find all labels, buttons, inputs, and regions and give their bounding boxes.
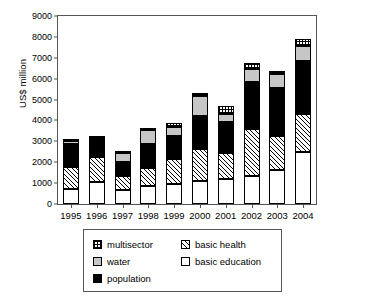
y-axis-tick-mark [54, 36, 58, 37]
x-axis-tick-label: 2003 [267, 210, 288, 221]
bar-segment-basic-education [89, 182, 105, 204]
legend-swatch-multisector-icon [93, 240, 102, 249]
bar-segment-multisector [166, 123, 182, 127]
x-axis-tick-mark [200, 204, 201, 208]
bar-segment-basic-health [192, 149, 208, 181]
x-axis-tick-mark [226, 204, 227, 208]
bar-segment-population [269, 88, 285, 136]
legend-label: basic education [195, 256, 261, 267]
y-axis-tick-mark [54, 162, 58, 163]
legend-label: water [107, 256, 130, 267]
bar-segment-basic-education [269, 170, 285, 204]
bar-segment-basic-health [166, 159, 182, 184]
bar-segment-basic-health [140, 168, 156, 186]
bar-segment-basic-education [140, 186, 156, 204]
legend-item-population[interactable]: population [93, 273, 181, 284]
legend-swatch-basic-health-icon [181, 240, 190, 249]
x-axis-tick-mark [252, 204, 253, 208]
x-axis-tick-label: 1995 [60, 210, 81, 221]
x-axis-tick-label: 2004 [293, 210, 314, 221]
x-axis-tick-label: 1998 [138, 210, 159, 221]
x-axis-tick-label: 1999 [164, 210, 185, 221]
bar-segment-multisector [269, 71, 285, 75]
bar-2003 [269, 71, 285, 204]
bar-1999 [166, 123, 182, 204]
bar-segment-population [295, 61, 311, 114]
y-axis-tick-mark [54, 16, 58, 17]
legend-swatch-population-icon [93, 274, 102, 283]
bar-segment-water [244, 69, 260, 82]
bar-segment-basic-education [63, 189, 79, 204]
x-axis-tick-label: 2000 [189, 210, 210, 221]
bar-segment-multisector [295, 39, 311, 46]
bar-2004 [295, 39, 311, 204]
y-axis-tick-mark [54, 78, 58, 79]
bar-segment-basic-education [295, 152, 311, 204]
y-axis-tick-mark [54, 99, 58, 100]
bar-segment-water [140, 130, 156, 144]
bar-segment-population [244, 82, 260, 129]
legend-item-basic-health[interactable]: basic health [181, 239, 281, 250]
legend-label: population [107, 273, 151, 284]
x-axis-tick-mark [123, 204, 124, 208]
bar-1997 [115, 152, 131, 204]
bar-1995 [63, 139, 79, 204]
bar-segment-water [115, 153, 131, 163]
x-axis-tick-mark [148, 204, 149, 208]
x-axis-tick-label: 2002 [241, 210, 262, 221]
bar-segment-multisector [89, 136, 105, 138]
x-axis-tick-label: 1997 [112, 210, 133, 221]
x-axis-tick-label: 1996 [86, 210, 107, 221]
bar-segment-multisector [140, 128, 156, 130]
bar-2001 [218, 106, 234, 204]
bar-segment-basic-health [218, 153, 234, 179]
bar-2000 [192, 93, 208, 204]
x-axis-tick-mark [277, 204, 278, 208]
bar-segment-basic-health [244, 129, 260, 176]
legend-swatch-basic-education-icon [181, 257, 190, 266]
bar-segment-basic-health [269, 136, 285, 170]
x-axis-tick-mark [303, 204, 304, 208]
legend-item-water[interactable]: water [93, 256, 181, 267]
bar-segment-water [269, 74, 285, 87]
legend-label: basic health [195, 239, 246, 250]
bar-segment-basic-education [244, 176, 260, 204]
bar-1996 [89, 136, 105, 204]
legend-swatch-water-icon [93, 257, 102, 266]
bar-segment-multisector [192, 93, 208, 96]
legend-label: multisector [107, 239, 153, 250]
bar-segment-basic-health [115, 176, 131, 190]
bar-segment-population [166, 136, 182, 159]
bar-segment-population [63, 144, 79, 167]
y-axis-tick-mark [54, 57, 58, 58]
bar-segment-multisector [115, 151, 131, 153]
bar-segment-water [63, 141, 79, 145]
bar-segment-multisector [63, 139, 79, 141]
bar-segment-water [218, 114, 234, 122]
y-axis-tick-mark [54, 120, 58, 121]
bar-segment-basic-education [166, 184, 182, 204]
y-axis-title: US$ million [17, 24, 28, 144]
plot-area: 0100020003000400050006000700080009000199… [57, 15, 317, 205]
y-axis-tick-mark [54, 141, 58, 142]
legend-item-multisector[interactable]: multisector [93, 239, 181, 250]
bar-segment-water [295, 46, 311, 61]
bar-segment-multisector [218, 106, 234, 114]
bar-segment-multisector [244, 63, 260, 69]
bar-2002 [244, 63, 260, 204]
y-axis-tick-mark [54, 183, 58, 184]
bar-segment-basic-education [218, 179, 234, 204]
bar-segment-basic-education [115, 190, 131, 204]
x-axis-tick-mark [71, 204, 72, 208]
bar-segment-basic-health [89, 157, 105, 182]
x-axis-tick-mark [174, 204, 175, 208]
x-axis-tick-mark [97, 204, 98, 208]
legend-item-basic-education[interactable]: basic education [181, 256, 281, 267]
chart-legend: multisectorbasic healthwaterbasic educat… [83, 229, 282, 292]
x-axis-tick-label: 2001 [215, 210, 236, 221]
bar-segment-basic-health [63, 167, 79, 190]
stacked-bar-chart: US$ million 0100020003000400050006000700… [0, 0, 365, 300]
bar-segment-water [166, 127, 182, 136]
y-axis-tick-mark [54, 204, 58, 205]
bar-1998 [140, 128, 156, 204]
